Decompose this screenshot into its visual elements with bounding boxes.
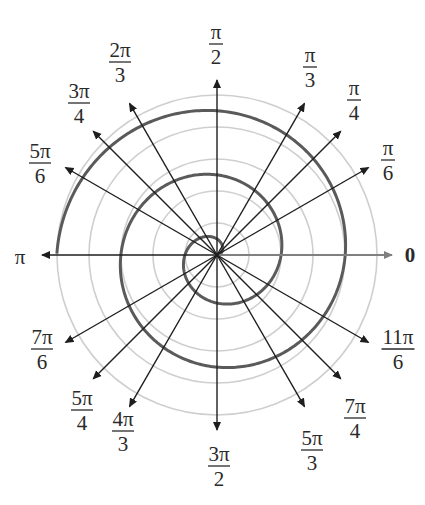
ray-5pi-3-arrow-icon — [217, 255, 305, 407]
label-numerator: π — [211, 20, 222, 44]
ray-4pi-3-arrow-icon — [130, 255, 218, 407]
label-denominator: 3 — [118, 432, 129, 456]
angle-label-7pi-6: 7π6 — [31, 325, 53, 374]
angle-label-5pi-3: 5π3 — [301, 426, 323, 475]
angle-label-11pi-6: 11π6 — [382, 325, 415, 374]
label-denominator: 4 — [349, 101, 360, 125]
label-text: π — [15, 245, 26, 269]
label-denominator: 4 — [74, 104, 85, 128]
angle-label-pi-6: π6 — [381, 136, 395, 185]
angle-label-pi-3: π3 — [303, 43, 317, 92]
angle-label-7pi-4: 7π4 — [344, 394, 366, 443]
angle-label-3pi-4: 3π4 — [68, 79, 90, 128]
ray-11pi-6-arrow-icon — [217, 255, 369, 343]
label-numerator: 4π — [112, 407, 134, 431]
label-denominator: 3 — [307, 451, 318, 475]
angle-label-pi: π — [15, 245, 26, 269]
ray-7pi-6-arrow-icon — [65, 255, 217, 343]
label-numerator: 7π — [31, 325, 53, 349]
label-denominator: 3 — [305, 68, 316, 92]
label-denominator: 4 — [350, 419, 361, 443]
label-denominator: 6 — [383, 161, 394, 185]
label-denominator: 6 — [393, 350, 404, 374]
angle-label-5pi-4: 5π4 — [71, 386, 93, 435]
label-numerator: 2π — [109, 38, 131, 62]
label-numerator: 3π — [68, 79, 90, 103]
label-denominator: 3 — [115, 63, 126, 87]
label-numerator: 5π — [71, 386, 93, 410]
label-numerator: 11π — [383, 325, 414, 349]
label-numerator: π — [305, 43, 316, 67]
angle-rays — [42, 80, 392, 430]
label-numerator: 5π — [29, 139, 51, 163]
angle-label-5pi-6: 5π6 — [29, 139, 51, 188]
angle-label-4pi-3: 4π3 — [112, 407, 134, 456]
label-numerator: 3π — [208, 442, 230, 466]
ray-5pi-6-arrow-icon — [65, 168, 217, 256]
label-denominator: 2 — [214, 467, 225, 491]
ray-2pi-3-arrow-icon — [130, 103, 218, 255]
label-text: 0 — [405, 243, 416, 267]
angle-label-0: 0 — [405, 243, 416, 267]
label-numerator: π — [383, 136, 394, 160]
label-denominator: 2 — [211, 45, 222, 69]
angle-label-2pi-3: 2π3 — [109, 38, 131, 87]
label-numerator: π — [349, 76, 360, 100]
label-numerator: 7π — [344, 394, 366, 418]
angle-label-pi-2: π2 — [209, 20, 223, 69]
label-numerator: 5π — [301, 426, 323, 450]
angle-label-3pi-2: 3π2 — [208, 442, 230, 491]
angle-label-pi-4: π4 — [347, 76, 361, 125]
label-denominator: 6 — [37, 350, 48, 374]
polar-spiral-diagram: 0π6π4π3π22π33π45π6π7π65π44π33π25π37π411π… — [0, 0, 425, 505]
label-denominator: 6 — [35, 164, 46, 188]
label-denominator: 4 — [77, 411, 88, 435]
